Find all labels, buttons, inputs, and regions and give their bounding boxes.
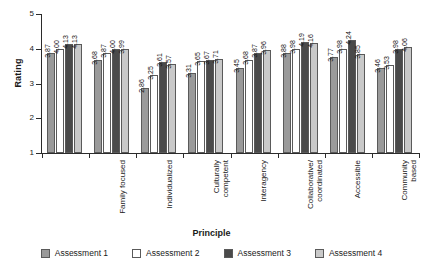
bar-group: 3.463.533.984.06 [377, 14, 414, 153]
bar [206, 60, 214, 153]
x-category-label: Collaborative/ coordinated [306, 160, 324, 216]
x-category-label: Culturally competent [212, 160, 230, 216]
y-tick-label: 3 [22, 80, 34, 88]
x-tick [42, 153, 43, 158]
bar-value-label: 3.98 [392, 41, 399, 55]
bar-value-label: 4.00 [53, 40, 60, 54]
bar [386, 65, 394, 153]
legend-label: Assessment 1 [55, 248, 108, 258]
bar [168, 64, 176, 153]
bar-value-label: 3.85 [354, 45, 361, 59]
bar [94, 60, 102, 153]
bar-slot: 3.87 [47, 14, 55, 153]
bar-group: 3.773.984.243.85 [330, 14, 367, 153]
x-category-label: Family focused [118, 160, 127, 216]
bar-value-label: 3.88 [280, 44, 287, 58]
bar-slot: 4.06 [404, 14, 412, 153]
bar-value-label: 4.24 [345, 32, 352, 46]
x-tick [183, 153, 184, 158]
bar [377, 68, 385, 153]
legend-item[interactable]: Assessment 2 [132, 248, 199, 258]
bar [339, 49, 347, 153]
legend-label: Assessment 3 [238, 248, 291, 258]
bar [254, 53, 262, 153]
bar-slot: 3.68 [94, 14, 102, 153]
y-tick-label: 1 [22, 149, 34, 157]
legend-item[interactable]: Assessment 4 [315, 248, 382, 258]
bar-slot: 4.13 [74, 14, 82, 153]
bar-slot: 3.53 [386, 14, 394, 153]
bar-group: 3.883.984.194.16 [283, 14, 320, 153]
x-category-label: Interagency [259, 160, 268, 216]
bar-value-label: 4.13 [62, 35, 69, 49]
bar-value-label: 3.45 [233, 59, 240, 73]
bar-slot: 3.68 [245, 14, 253, 153]
bar-slot: 3.67 [206, 14, 214, 153]
bar [215, 59, 223, 153]
bar [150, 75, 158, 153]
legend-swatch-icon [224, 249, 233, 258]
bar [357, 54, 365, 153]
bar-slot: 3.98 [395, 14, 403, 153]
bar-slot: 3.25 [150, 14, 158, 153]
bar-value-label: 3.99 [118, 40, 125, 54]
bar-value-label: 3.87 [44, 44, 51, 58]
bar-slot: 3.46 [377, 14, 385, 153]
bar-value-label: 3.65 [194, 52, 201, 66]
bar-value-label: 3.87 [251, 44, 258, 58]
bar-slot: 3.87 [103, 14, 111, 153]
bar-value-label: 4.00 [109, 40, 116, 54]
bar-group: 3.874.004.134.13 [47, 14, 84, 153]
bar-slot: 3.65 [197, 14, 205, 153]
bar-value-label: 3.61 [156, 54, 163, 68]
bar [103, 53, 111, 153]
bar-slot: 4.16 [310, 14, 318, 153]
bar [65, 44, 73, 153]
bar [404, 47, 412, 153]
bar-value-label: 4.06 [401, 38, 408, 52]
bar-value-label: 3.25 [147, 66, 154, 80]
bar-slot: 3.45 [236, 14, 244, 153]
legend-item[interactable]: Assessment 3 [224, 248, 291, 258]
bar-value-label: 3.67 [203, 51, 210, 65]
x-category-label: Individualized [165, 160, 174, 216]
legend-swatch-icon [41, 249, 50, 258]
bar-value-label: 3.68 [242, 51, 249, 65]
bar-slot: 3.96 [263, 14, 271, 153]
x-category-label: Accessible [353, 160, 362, 216]
x-tick [89, 153, 90, 158]
bar-value-label: 3.71 [212, 50, 219, 64]
y-tick-label: 4 [22, 45, 34, 53]
bar-slot: 3.57 [168, 14, 176, 153]
legend-item[interactable]: Assessment 1 [41, 248, 108, 258]
bar [188, 73, 196, 153]
bar-slot: 3.61 [159, 14, 167, 153]
x-tick [278, 153, 279, 158]
bar-value-label: 2.86 [138, 80, 145, 94]
y-tick-label: 5 [22, 10, 34, 18]
y-tick-label: 2 [22, 114, 34, 122]
legend-label: Assessment 2 [146, 248, 199, 258]
bar [236, 68, 244, 153]
chart-legend: Assessment 1Assessment 2Assessment 3Asse… [0, 248, 423, 258]
bar-group: 2.863.253.613.57 [141, 14, 178, 153]
bar-slot: 3.87 [254, 14, 262, 153]
bar-slot: 4.00 [112, 14, 120, 153]
bar [283, 53, 291, 153]
bar-value-label: 3.87 [100, 44, 107, 58]
legend-swatch-icon [315, 249, 324, 258]
bar [330, 57, 338, 153]
bar-value-label: 3.77 [327, 48, 334, 62]
bar-chart: Rating 12345 3.874.004.134.133.683.874.0… [0, 0, 423, 273]
bar [112, 49, 120, 153]
bar-slot: 3.77 [330, 14, 338, 153]
bar [159, 62, 167, 153]
bar [74, 44, 82, 153]
bar-value-label: 4.13 [71, 35, 78, 49]
bar-slot: 3.99 [121, 14, 129, 153]
bar-group: 3.313.653.673.71 [188, 14, 225, 153]
bar-slot: 3.88 [283, 14, 291, 153]
x-tick [372, 153, 373, 158]
bar [263, 50, 271, 153]
x-tick [419, 153, 420, 158]
